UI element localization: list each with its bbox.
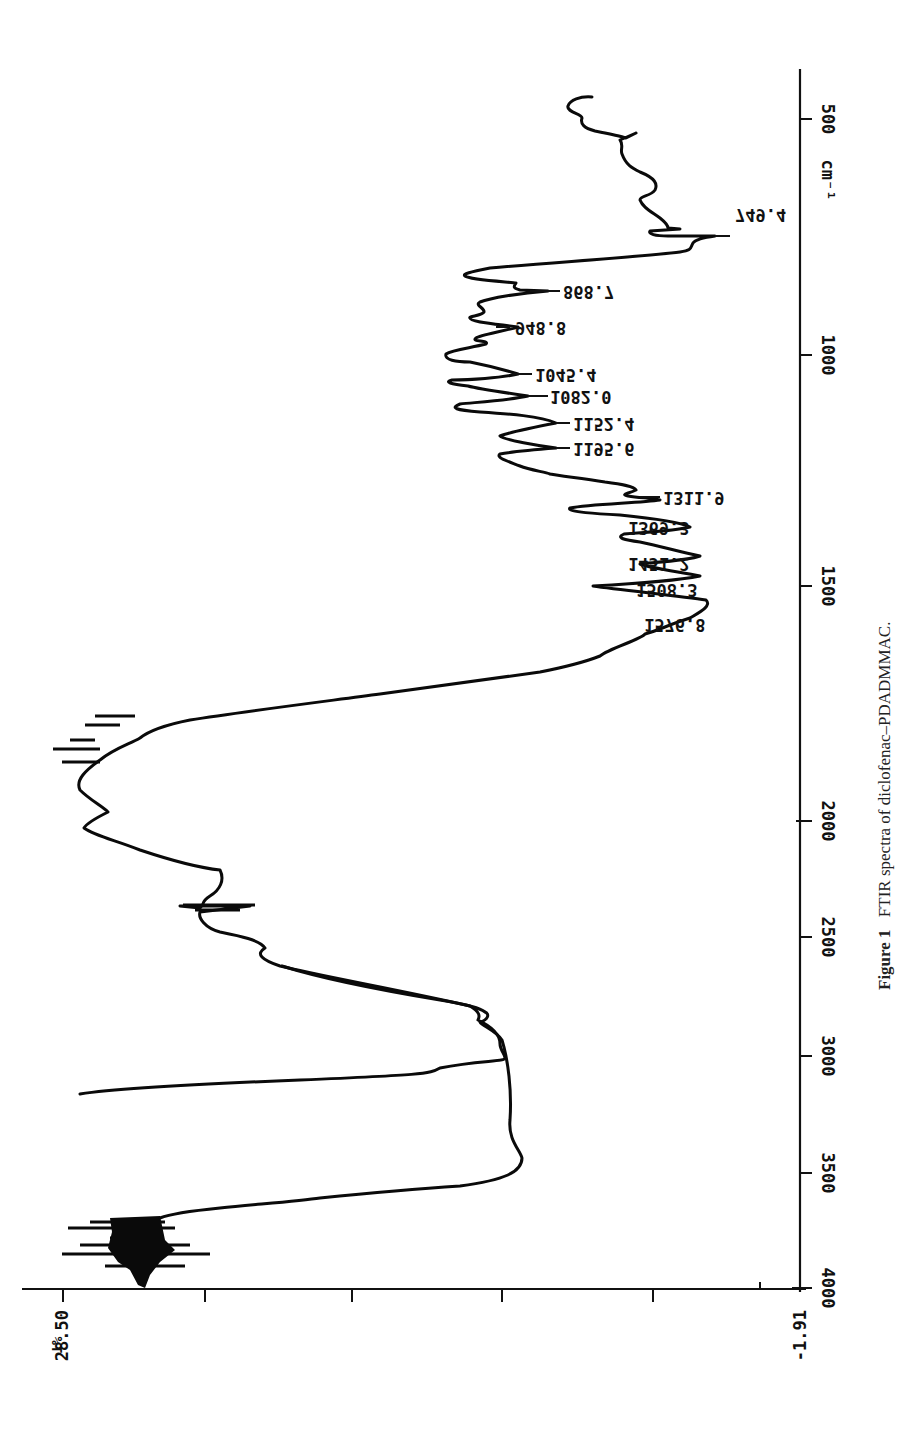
wavenumber-tick-2000: 2000 xyxy=(818,801,838,842)
wavenumber-tick-4000: 4000 xyxy=(818,1268,838,1309)
spectrum-noise-bursts xyxy=(53,716,255,1288)
svg-text:Figure 1 FTIR spectra of: Figure 1 FTIR spectra of diclofenac–PDAD… xyxy=(875,622,894,990)
wavenumber-tick-1000: 1000 xyxy=(818,335,838,376)
transmittance-unit-label: %T xyxy=(49,1337,65,1354)
peak-label-1082: 1082.0 xyxy=(550,387,611,407)
wavenumber-unit: cm⁻¹ xyxy=(818,160,838,201)
peak-label-1195: 1195.6 xyxy=(573,439,634,459)
peak-label-1508: 1508.3 xyxy=(636,580,697,600)
peak-label-1152: 1152.4 xyxy=(573,414,634,434)
wavenumber-tick-3000: 3000 xyxy=(818,1036,838,1077)
wavenumber-tick-3500: 3500 xyxy=(818,1153,838,1194)
ftir-spectrum-figure: 500 cm⁻¹ 1000 1500 2000 2500 3000 3500 4… xyxy=(0,0,923,1444)
peak-label-1451: 1451.2 xyxy=(628,554,689,574)
spectrum-trace xyxy=(79,97,715,1260)
peak-label-1576: 1576.8 xyxy=(644,615,705,635)
peak-label-1311: 1311.9 xyxy=(663,488,724,508)
peak-label-1369: 1369.3 xyxy=(628,518,689,538)
figure-caption: Figure 1 FTIR spectra of diclofenac–PDAD… xyxy=(875,622,894,990)
peak-label-948: 948.8 xyxy=(515,318,566,338)
caption-text: FTIR spectra of diclofenac–PDADMMAC. xyxy=(875,622,894,918)
peak-label-749: 749.4 xyxy=(735,205,786,225)
peak-label-868: 868.7 xyxy=(563,282,614,302)
transmittance-axis: 28.50 %T -1.91 xyxy=(22,1282,810,1361)
transmittance-min-label: -1.91 xyxy=(790,1310,810,1361)
wavenumber-tick-2500: 2500 xyxy=(818,917,838,958)
wavenumber-tick-1500: 1500 xyxy=(818,566,838,607)
wavenumber-axis: 500 cm⁻¹ 1000 1500 2000 2500 3000 3500 4… xyxy=(792,69,838,1308)
wavenumber-tick-500: 500 xyxy=(818,104,838,135)
caption-label: Figure 1 xyxy=(875,929,894,990)
peak-annotations: 749.4 868.7 948.8 1045.4 1082.0 1152.4 1… xyxy=(496,205,786,635)
spectrum-trace-high-wavenumber xyxy=(76,692,520,1218)
peak-label-1045: 1045.4 xyxy=(535,365,596,385)
